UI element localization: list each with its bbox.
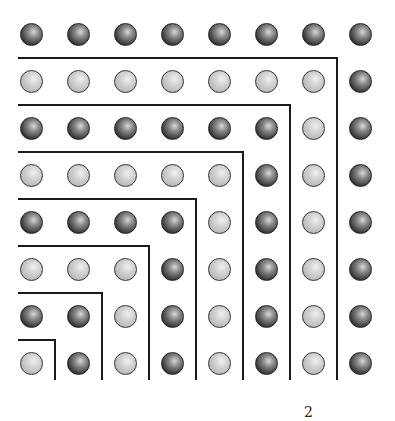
- sphere-light: [161, 70, 184, 93]
- sphere-dark: [255, 164, 278, 187]
- sphere-light: [208, 70, 231, 93]
- sphere-dark: [349, 352, 372, 375]
- sphere-dark: [349, 164, 372, 187]
- caption-superscript: 2: [304, 404, 313, 420]
- sphere-dark: [161, 258, 184, 281]
- sphere-dark: [114, 211, 137, 234]
- gnomon-boundary-horizontal: [18, 245, 150, 247]
- gnomon-boundary-vertical: [101, 292, 103, 381]
- sphere-dark: [255, 258, 278, 281]
- sphere-dark: [20, 23, 43, 46]
- sphere-dark: [255, 352, 278, 375]
- sphere-dark: [67, 305, 90, 328]
- sphere-dark: [67, 23, 90, 46]
- sphere-dark: [161, 305, 184, 328]
- sphere-light: [302, 258, 325, 281]
- sphere-dark: [349, 258, 372, 281]
- gnomon-boundary-horizontal: [18, 151, 244, 153]
- sphere-dark: [114, 23, 137, 46]
- sphere-light: [114, 258, 137, 281]
- sphere-dark: [161, 352, 184, 375]
- gnomon-boundary-vertical: [148, 245, 150, 381]
- sphere-dark: [161, 117, 184, 140]
- sphere-light: [67, 164, 90, 187]
- sphere-light: [114, 352, 137, 375]
- sphere-light: [161, 164, 184, 187]
- sphere-dark: [20, 211, 43, 234]
- sphere-light: [302, 352, 325, 375]
- sphere-light: [302, 117, 325, 140]
- sphere-light: [67, 258, 90, 281]
- gnomon-boundary-horizontal: [18, 104, 291, 106]
- sphere-dark: [255, 211, 278, 234]
- sphere-dark: [349, 70, 372, 93]
- sphere-dark: [208, 117, 231, 140]
- gnomon-boundary-vertical: [195, 198, 197, 381]
- sphere-dark: [349, 305, 372, 328]
- sphere-light: [20, 258, 43, 281]
- sphere-light: [208, 211, 231, 234]
- sphere-light: [114, 305, 137, 328]
- gnomon-boundary-horizontal: [18, 339, 56, 341]
- gnomon-boundary-horizontal: [18, 292, 103, 294]
- sphere-light: [20, 70, 43, 93]
- gnomon-boundary-horizontal: [18, 57, 338, 59]
- sphere-light: [67, 70, 90, 93]
- sphere-light: [302, 211, 325, 234]
- sphere-dark: [67, 117, 90, 140]
- sphere-dark: [349, 117, 372, 140]
- gnomon-diagram: [0, 0, 395, 421]
- sphere-light: [255, 70, 278, 93]
- gnomon-boundary-vertical: [242, 151, 244, 381]
- sphere-light: [20, 352, 43, 375]
- sphere-dark: [20, 305, 43, 328]
- sphere-light: [208, 352, 231, 375]
- gnomon-boundary-vertical: [54, 339, 56, 381]
- sphere-dark: [67, 352, 90, 375]
- sphere-light: [208, 164, 231, 187]
- sphere-dark: [161, 211, 184, 234]
- sphere-light: [302, 70, 325, 93]
- sphere-dark: [20, 117, 43, 140]
- sphere-light: [114, 164, 137, 187]
- gnomon-boundary-vertical: [336, 57, 338, 381]
- sphere-dark: [114, 117, 137, 140]
- sphere-dark: [208, 23, 231, 46]
- sphere-light: [20, 164, 43, 187]
- sphere-dark: [255, 117, 278, 140]
- sphere-light: [302, 164, 325, 187]
- sphere-dark: [67, 211, 90, 234]
- sphere-dark: [255, 305, 278, 328]
- sphere-light: [114, 70, 137, 93]
- sphere-light: [208, 305, 231, 328]
- sphere-light: [208, 258, 231, 281]
- sphere-dark: [349, 211, 372, 234]
- sphere-dark: [349, 23, 372, 46]
- sphere-dark: [255, 23, 278, 46]
- sphere-dark: [302, 23, 325, 46]
- sphere-light: [302, 305, 325, 328]
- gnomon-boundary-vertical: [289, 104, 291, 381]
- sphere-dark: [161, 23, 184, 46]
- gnomon-boundary-horizontal: [18, 198, 197, 200]
